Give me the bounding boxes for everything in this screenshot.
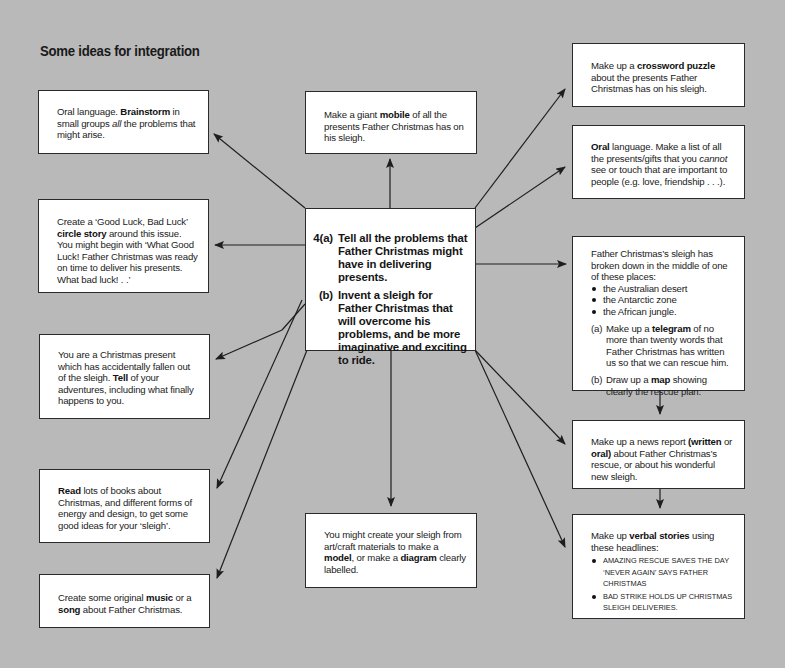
box-music: Create some original music or a song abo…	[39, 574, 210, 628]
box-oral-list: Oral language. Make a list of all the pr…	[572, 125, 745, 199]
box-verbal-stories-text: Make up verbal stories using these headl…	[591, 530, 738, 615]
arrow-to-music	[217, 350, 307, 578]
box-news-report-text: Make up a news report (written or oral) …	[591, 436, 734, 482]
box-mobile: Make a giant mobile of all the presents …	[305, 91, 477, 154]
box-crossword: Make up a crossword puzzle about the pre…	[572, 43, 745, 107]
place-item: the Australian desert	[591, 283, 736, 295]
box-circle-story: Create a ‘Good Luck, Bad Luck’ circle st…	[38, 199, 209, 293]
page-title: Some ideas for integration	[40, 42, 200, 59]
box-brainstorm-text: Oral language. Brainstorm in small group…	[57, 106, 198, 141]
box-read-books: Read lots of books about Christmas, and …	[39, 469, 210, 543]
box-sleigh-broken: Father Christmas’s sleigh has broken dow…	[572, 236, 745, 391]
box-brainstorm: Oral language. Brainstorm in small group…	[38, 90, 209, 154]
places-list: the Australian desert the Antarctic zone…	[591, 283, 736, 318]
central-task-b: (b) Invent a sleigh for Father Christmas…	[306, 289, 469, 367]
headlines-list: AMAZING RESCUE SAVES THE DAY ‘NEVER AGAI…	[591, 555, 738, 614]
arrow-to-brainstorm	[214, 134, 305, 208]
headline-item: BAD STRIKE HOLDS UP CHRISTMAS SLEIGH DEL…	[591, 591, 738, 614]
arrow-to-oral-list	[475, 167, 565, 228]
box-crossword-text: Make up a crossword puzzle about the pre…	[591, 60, 734, 95]
box-christmas-present-text: You are a Christmas present which has ac…	[58, 349, 199, 407]
box-oral-list-text: Oral language. Make a list of all the pr…	[591, 141, 734, 187]
central-task-box: 4(a) Tell all the problems that Father C…	[305, 208, 476, 351]
arrow-to-present	[216, 330, 282, 359]
box-verbal-stories: Make up verbal stories using these headl…	[572, 514, 745, 619]
box-model-text: You might create your sleigh from art/cr…	[324, 529, 466, 575]
sleigh-task-b: (b) Draw up a map showing clearly the re…	[591, 374, 736, 397]
arrow-to-verbal	[475, 350, 565, 547]
box-read-books-text: Read lots of books about Christmas, and …	[58, 485, 199, 531]
arrow-to-crossword	[475, 89, 565, 208]
place-item: the African jungle.	[591, 306, 736, 318]
central-task-a: 4(a) Tell all the problems that Father C…	[306, 232, 469, 284]
place-item: the Antarctic zone	[591, 294, 736, 306]
box-sleigh-broken-text: Father Christmas’s sleigh has broken dow…	[591, 248, 736, 397]
box-news-report: Make up a news report (written or oral) …	[572, 420, 745, 489]
box-christmas-present: You are a Christmas present which has ac…	[39, 334, 210, 419]
box-mobile-text: Make a giant mobile of all the presents …	[324, 109, 466, 144]
headline-item: AMAZING RESCUE SAVES THE DAY ‘NEVER AGAI…	[591, 555, 738, 590]
box-model: You might create your sleigh from art/cr…	[305, 513, 477, 588]
arrow-to-read	[217, 300, 302, 488]
sleigh-task-a: (a) Make up a telegram of no more than t…	[591, 323, 736, 369]
box-music-text: Create some original music or a song abo…	[58, 592, 199, 615]
arrow-to-news	[475, 350, 565, 444]
box-circle-story-text: Create a ‘Good Luck, Bad Luck’ circle st…	[57, 216, 198, 286]
